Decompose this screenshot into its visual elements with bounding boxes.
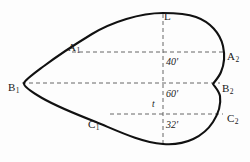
subscript-mid-left: 1 [16,86,20,95]
point-label-lower-left: C1 [88,119,100,130]
subscript-upper-left: 1 [76,46,80,55]
subscript-lower-left: 1 [96,123,100,132]
dimension-middle-segment: 60' [166,89,178,99]
point-label-apex: L [164,11,171,22]
dimension-thickness-t: t [152,100,155,110]
dimension-upper-segment: 40' [166,57,178,67]
leaf-cross-section-diagram: L A1 A2 B1 B2 C1 C2 40' 60' 32' t [0,0,250,162]
dimension-lower-segment: 32' [166,120,178,130]
leaf-outline-path [24,13,224,144]
diagram-canvas [0,0,250,162]
subscript-lower-right: 2 [235,117,239,126]
subscript-upper-right: 2 [235,55,239,64]
point-label-upper-right: A2 [227,51,239,62]
point-label-mid-right: B2 [222,83,234,94]
point-label-lower-right: C2 [227,113,239,124]
point-label-mid-left: B1 [8,82,20,93]
subscript-mid-right: 2 [230,87,234,96]
point-label-upper-left: A1 [68,42,80,53]
